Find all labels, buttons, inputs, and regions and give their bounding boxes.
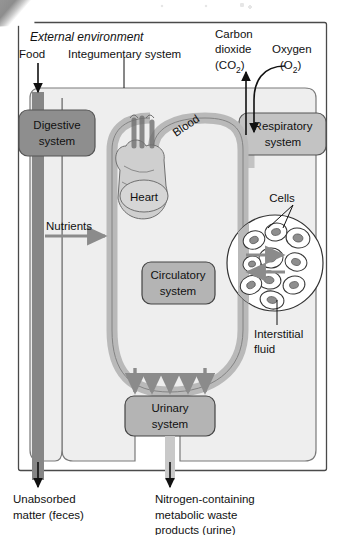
interstitial-fluid-label-line1: Interstitial xyxy=(254,328,303,340)
cells-label: Cells xyxy=(269,192,295,204)
oxygen-formula-open: (O xyxy=(280,59,293,71)
digestive-system-box[interactable]: Digestive system xyxy=(19,110,95,156)
cells-cluster xyxy=(227,215,323,311)
carbon-dioxide-formula-close: ) xyxy=(241,59,245,71)
interstitial-fluid-label-line2: fluid xyxy=(254,343,275,355)
external-environment-label: External environment xyxy=(30,30,144,44)
urinary-system-label-line2: system xyxy=(152,418,188,430)
heart-label: Heart xyxy=(130,191,159,203)
oxygen-formula-close: ) xyxy=(298,59,302,71)
food-label: Food xyxy=(19,48,45,60)
integumentary-system-label: Integumentary system xyxy=(68,48,181,60)
carbon-dioxide-label-line2: dioxide xyxy=(215,43,251,55)
nutrients-label: Nutrients xyxy=(46,220,92,232)
unabsorbed-matter-label-line2: matter (feces) xyxy=(13,509,84,521)
circulatory-system-box[interactable]: Circulatory system xyxy=(142,262,215,304)
digestive-system-label-line2: system xyxy=(39,135,75,147)
oxygen-label: Oxygen xyxy=(272,43,312,55)
respiratory-system-box[interactable]: Respiratory system xyxy=(239,113,326,155)
unabsorbed-matter-label-line1: Unabsorbed xyxy=(13,493,76,505)
body-systems-diagram: Digestive system Respiratory system Hear… xyxy=(0,0,341,535)
digestive-system-label-line1: Digestive xyxy=(33,119,80,131)
carbon-dioxide-formula-open: (CO xyxy=(215,59,236,71)
respiratory-system-label-line1: Respiratory xyxy=(254,120,313,132)
circulatory-system-label-line2: system xyxy=(160,285,196,297)
respiratory-system-label-line2: system xyxy=(265,136,301,148)
diagram-canvas: Digestive system Respiratory system Hear… xyxy=(0,0,341,535)
nitrogen-waste-label-line2: metabolic waste xyxy=(155,509,237,521)
urinary-system-box[interactable]: Urinary system xyxy=(125,396,215,436)
carbon-dioxide-label-line1: Carbon xyxy=(215,28,253,40)
nitrogen-waste-label-line1: Nitrogen-containing xyxy=(155,493,255,505)
nitrogen-waste-label-line3: products (urine) xyxy=(155,524,236,535)
urinary-system-label-line1: Urinary xyxy=(151,402,188,414)
circulatory-system-label-line1: Circulatory xyxy=(151,269,206,281)
